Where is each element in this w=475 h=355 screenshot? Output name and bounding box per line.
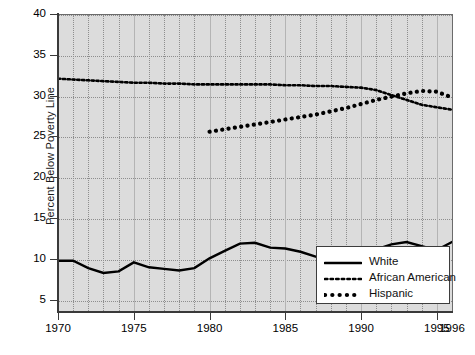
x-tick-label-1975: 1975 bbox=[104, 322, 164, 334]
chart-legend: WhiteAfrican AmericanHispanic bbox=[316, 246, 450, 304]
x-tick-label-1990: 1990 bbox=[331, 322, 391, 334]
y-tick-mark-30 bbox=[50, 96, 58, 97]
y-tick-label-20: 20 bbox=[6, 170, 46, 182]
y-tick-label-40: 40 bbox=[6, 7, 46, 19]
y-tick-mark-35 bbox=[50, 55, 58, 56]
y-tick-mark-10 bbox=[50, 259, 58, 260]
x-tick-mark-1970 bbox=[58, 313, 59, 320]
x-tick-label-1970: 1970 bbox=[28, 322, 88, 334]
y-tick-mark-5 bbox=[50, 300, 58, 301]
y-tick-mark-25 bbox=[50, 136, 58, 137]
y-tick-mark-15 bbox=[50, 218, 58, 219]
legend-label: White bbox=[369, 255, 398, 267]
x-tick-mark-1985 bbox=[285, 313, 286, 320]
y-tick-mark-40 bbox=[50, 14, 58, 15]
legend-swatch-dotted-bold bbox=[324, 287, 362, 299]
legend-swatch-dotted-fine bbox=[324, 271, 362, 283]
x-axis-spine bbox=[57, 311, 453, 313]
legend-label: African American bbox=[369, 271, 456, 283]
y-tick-label-10: 10 bbox=[6, 252, 46, 264]
x-tick-mark-1980 bbox=[210, 313, 211, 320]
legend-item-african-american[interactable]: African American bbox=[324, 269, 456, 285]
y-tick-label-25: 25 bbox=[6, 129, 46, 141]
y-tick-label-30: 30 bbox=[6, 89, 46, 101]
y-tick-label-5: 5 bbox=[6, 293, 46, 305]
legend-item-hispanic[interactable]: Hispanic bbox=[324, 285, 413, 301]
x-tick-mark-1990 bbox=[361, 313, 362, 320]
x-tick-mark-1995 bbox=[437, 313, 438, 320]
x-tick-label-1996: 1996 bbox=[422, 322, 475, 334]
poverty-line-chart-figure: Percent Below Poverty Line 4035302520151… bbox=[0, 0, 475, 355]
y-tick-mark-20 bbox=[50, 177, 58, 178]
series-line-african-american bbox=[58, 79, 452, 110]
y-tick-label-15: 15 bbox=[6, 211, 46, 223]
y-axis-title: Percent Below Poverty Line bbox=[44, 46, 56, 266]
legend-label: Hispanic bbox=[369, 287, 413, 299]
legend-item-white[interactable]: White bbox=[324, 253, 398, 269]
y-axis-spine bbox=[57, 13, 59, 313]
y-tick-label-35: 35 bbox=[6, 48, 46, 60]
x-tick-label-1985: 1985 bbox=[255, 322, 315, 334]
series-line-hispanic bbox=[210, 91, 452, 132]
x-tick-mark-1975 bbox=[134, 313, 135, 320]
legend-swatch-solid bbox=[324, 255, 362, 267]
x-tick-label-1980: 1980 bbox=[180, 322, 240, 334]
